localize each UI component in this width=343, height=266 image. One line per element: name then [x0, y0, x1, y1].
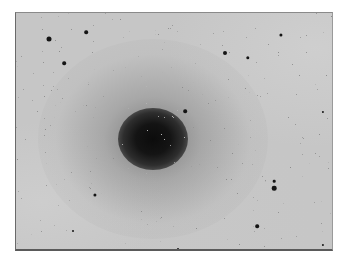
plate-speck: [16, 127, 17, 128]
plate-speck: [90, 171, 91, 172]
plate-speck: [44, 96, 45, 97]
plate-speck: [264, 228, 265, 229]
plate-speck: [64, 179, 65, 180]
star: [273, 180, 276, 183]
plate-speck: [174, 162, 175, 163]
plate-speck: [51, 90, 52, 91]
plate-speck: [281, 238, 282, 239]
plate-speck: [199, 164, 200, 165]
plate-speck: [54, 225, 55, 226]
plate-speck: [242, 163, 243, 164]
plate-speck: [161, 134, 162, 135]
plate-speck: [194, 179, 195, 180]
plate-speck: [196, 228, 197, 229]
plate-speck: [58, 205, 59, 206]
plate-speck: [83, 105, 84, 106]
plate-speck: [330, 213, 331, 214]
plate-speck: [278, 55, 279, 56]
plate-speck: [170, 145, 171, 146]
plate-speck: [96, 158, 97, 159]
plate-speck: [125, 67, 126, 68]
plate-speck: [160, 218, 161, 219]
plate-speck: [128, 168, 129, 169]
plate-speck: [292, 64, 293, 65]
plate-speck: [32, 100, 33, 101]
plate-speck: [162, 72, 163, 73]
plate-speck: [264, 78, 265, 79]
plate-speck: [321, 223, 322, 224]
plate-speck: [113, 70, 114, 71]
plate-speck: [37, 111, 38, 112]
plate-speck: [61, 47, 62, 48]
plate-speck: [170, 28, 171, 29]
plate-speck: [215, 100, 216, 101]
plate-speck: [306, 35, 307, 36]
plate-speck: [296, 94, 297, 95]
plate-speck: [158, 34, 159, 35]
plate-speck: [222, 45, 223, 46]
plate-speck: [191, 166, 192, 167]
plate-speck: [45, 152, 46, 153]
plate-speck: [327, 118, 328, 119]
plate-speck: [164, 139, 165, 140]
plate-speck: [177, 110, 178, 111]
plate-speck: [59, 51, 60, 52]
plate-speck: [44, 135, 45, 136]
plate-speck: [168, 28, 169, 29]
star: [223, 51, 227, 55]
plate-speck: [155, 34, 156, 35]
plate-speck: [317, 89, 318, 90]
plate-speck: [300, 143, 301, 144]
plate-speck: [92, 52, 93, 53]
plate-speck: [213, 33, 214, 34]
plate-speck: [57, 89, 58, 90]
plate-speck: [323, 32, 324, 33]
plate-speck: [319, 134, 320, 135]
plate-speck: [268, 44, 269, 45]
plate-speck: [328, 168, 329, 169]
plate-speck: [290, 167, 291, 168]
plate-speck: [41, 17, 42, 18]
plate-speck: [248, 75, 249, 76]
plate-speck: [315, 84, 316, 85]
plate-speck: [56, 184, 57, 185]
plate-speck: [158, 116, 159, 117]
plate-speck: [42, 51, 43, 52]
plate-speck: [229, 52, 230, 53]
plate-speck: [315, 153, 316, 154]
plate-speck: [164, 117, 165, 118]
plate-speck: [43, 85, 44, 86]
plate-speck: [299, 75, 300, 76]
plate-speck: [257, 95, 258, 96]
plate-speck: [42, 29, 43, 30]
plate-speck: [244, 151, 245, 152]
plate-speck: [256, 62, 257, 63]
plate-speck: [87, 146, 88, 147]
plate-speck: [303, 138, 304, 139]
plate-speck: [93, 41, 94, 42]
plate-speck: [262, 176, 263, 177]
plate-speck: [255, 150, 256, 151]
plate-speck: [188, 90, 189, 91]
plate-speck: [66, 230, 67, 231]
plate-speck: [54, 117, 55, 118]
plate-speck: [69, 200, 70, 201]
plate-speck: [156, 221, 157, 222]
plate-speck: [31, 234, 32, 235]
plate-speck: [25, 139, 26, 140]
plate-speck: [228, 79, 229, 80]
plate-speck: [91, 183, 92, 184]
plate-speck: [129, 31, 130, 32]
plate-speck: [321, 201, 322, 202]
plate-speck: [123, 37, 124, 38]
plate-speck: [103, 96, 104, 97]
plate-speck: [210, 140, 211, 141]
plate-speck: [195, 63, 196, 64]
star: [183, 109, 187, 113]
plate-speck: [68, 78, 69, 79]
plate-speck: [252, 164, 253, 165]
plate-speck: [224, 128, 225, 129]
plate-speck: [60, 102, 61, 103]
star: [84, 30, 88, 34]
plate-speck: [93, 117, 94, 118]
